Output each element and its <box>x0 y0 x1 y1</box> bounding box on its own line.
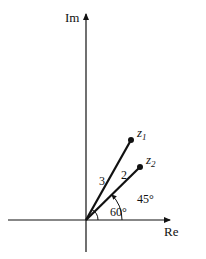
z2-modulus-label: 2 <box>121 168 127 182</box>
z1-label: z1 <box>136 125 147 142</box>
z1-modulus-label: 3 <box>99 174 105 188</box>
real-axis-label: Re <box>164 224 179 239</box>
z2-label: z2 <box>145 152 156 169</box>
angle-label-60: 60° <box>110 205 127 219</box>
angle-label-45: 45° <box>137 192 154 206</box>
point-z2 <box>137 164 143 170</box>
imaginary-axis-label: Im <box>65 10 79 25</box>
point-z1 <box>128 137 134 143</box>
complex-plane-diagram: Re Im z1 3 z2 2 60° 45° <box>0 0 206 259</box>
